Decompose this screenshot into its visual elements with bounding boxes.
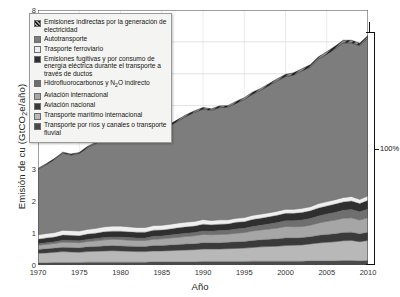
y-axis-tick-label: 3	[14, 165, 36, 174]
legend-swatch-icon	[34, 20, 41, 27]
legend-item-label: Transporte por ríos y canales o transpor…	[44, 121, 167, 136]
x-axis-tick-label: 2005	[318, 268, 335, 277]
legend-item[interactable]: Emisiones fugitivas y por consumo de ene…	[34, 55, 167, 78]
x-axis-tick-label: 1975	[71, 268, 88, 277]
chart-figure: Emisión de cu (GtCO2e/año) 012345678 Año…	[0, 0, 400, 297]
legend-swatch-icon	[34, 93, 41, 100]
legend-item-label: Aviación nacional	[44, 101, 95, 109]
legend-item-label: Aviación internacional	[44, 91, 108, 99]
legend-swatch-icon	[34, 103, 41, 110]
x-axis-tick-label: 1995	[236, 268, 253, 277]
chart-legend: Emisiones indirectas por la generación d…	[29, 13, 172, 143]
legend-swatch-icon	[34, 113, 41, 120]
x-axis-tick-label: 1970	[30, 268, 47, 277]
x-axis-tick-label: 1985	[153, 268, 170, 277]
legend-swatch-icon	[34, 46, 41, 53]
total-bracket-label: 100%	[380, 144, 399, 153]
legend-item[interactable]: Autotransporte	[34, 35, 167, 44]
legend-swatch-icon	[34, 123, 41, 130]
legend-swatch-icon	[34, 56, 41, 63]
legend-item-label: Autotransporte	[44, 35, 87, 43]
x-axis-title: Año	[0, 281, 400, 292]
x-axis-tick-label: 2010	[360, 268, 377, 277]
total-bracket	[366, 32, 375, 265]
legend-item-label: Transporte marítimo internacional	[44, 111, 142, 119]
x-axis-tick-label: 1990	[195, 268, 212, 277]
legend-item[interactable]: Transporte por ríos y canales o transpor…	[34, 121, 167, 136]
legend-item-label: Emisiones fugitivas y por consumo de ene…	[44, 55, 167, 78]
total-bracket-tick	[375, 149, 379, 150]
legend-item-label: Trasporte ferroviario	[44, 45, 103, 53]
y-axis-tick-label: 2	[14, 197, 36, 206]
legend-item-label: Emisiones indirectas por la generación d…	[44, 18, 167, 33]
legend-swatch-icon	[34, 36, 41, 43]
legend-item[interactable]: Aviación nacional	[34, 101, 167, 110]
y-axis-tick-label: 1	[14, 229, 36, 238]
legend-item[interactable]: Hidrofluorocarbonos y N2O indirecto	[34, 79, 167, 90]
legend-item[interactable]: Emisiones indirectas por la generación d…	[34, 18, 167, 33]
legend-item[interactable]: Transporte marítimo internacional	[34, 111, 167, 120]
legend-swatch-icon	[34, 80, 41, 87]
x-axis-tick-label: 1980	[112, 268, 129, 277]
legend-item[interactable]: Aviación internacional	[34, 91, 167, 100]
legend-item-label: Hidrofluorocarbonos y N2O indirecto	[44, 79, 150, 90]
legend-item[interactable]: Trasporte ferroviario	[34, 45, 167, 54]
x-axis-tick-label: 2000	[277, 268, 294, 277]
